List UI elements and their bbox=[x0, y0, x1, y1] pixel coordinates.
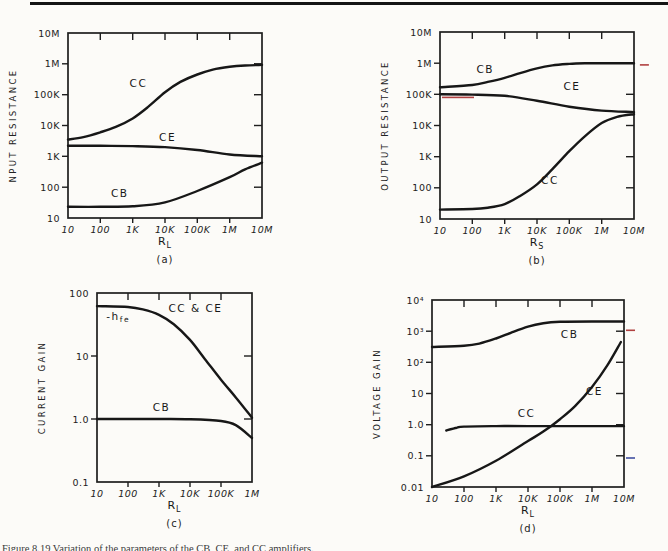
chart-c-current-gain: 101001K10K100K1M100101.00.1-hfeCC & CECB… bbox=[0, 276, 334, 551]
subfigure-label: (a) bbox=[157, 254, 174, 265]
y-tick-label: 100 bbox=[412, 182, 432, 193]
curve-CE bbox=[68, 146, 262, 157]
curve-CC bbox=[68, 65, 262, 140]
x-tick-label: 100 bbox=[90, 224, 110, 235]
x-tick-label: 10K bbox=[155, 224, 175, 235]
plot-border bbox=[440, 32, 634, 219]
x-axis-title: RL bbox=[521, 504, 535, 519]
x-axis-title: RS bbox=[530, 236, 545, 251]
y-tick-label: 1K bbox=[47, 151, 61, 162]
curve-CB bbox=[68, 163, 262, 207]
x-tick-label: 100 bbox=[454, 493, 474, 504]
y-tick-label: 100K bbox=[34, 89, 61, 100]
series-label-CE: CE bbox=[159, 131, 176, 143]
y-axis-title: OUTPUT RESISTANCE bbox=[380, 60, 390, 191]
series-label-CB: CB bbox=[111, 187, 129, 199]
y-tick-label: 100K bbox=[406, 89, 433, 100]
y-tick-label: 100 bbox=[40, 182, 60, 193]
y-axis-title: NPUT RESISTANCE bbox=[8, 68, 18, 182]
y-tick-label: 10³ bbox=[407, 326, 424, 337]
y-tick-label: 10 bbox=[411, 388, 424, 399]
x-tick-label: 1M bbox=[222, 224, 237, 235]
chart-a-input-resistance: 101001K10K100K1M10M10M1M100K10K1K10010CC… bbox=[0, 0, 334, 275]
chart-c-canvas: 101001K10K100K1M100101.00.1-hfeCC & CECB… bbox=[0, 276, 334, 551]
series-label-CE: CE bbox=[586, 385, 603, 397]
y-tick-label: 10 bbox=[47, 213, 60, 224]
x-tick-label: 10K bbox=[527, 225, 547, 236]
plot-border bbox=[68, 33, 262, 218]
y-tick-label: 1.0 bbox=[72, 414, 89, 425]
chart-d-voltage-gain: 101001K10K100K1M10M10⁴10³10²101.00.10.01… bbox=[334, 276, 668, 551]
x-tick-label: 1M bbox=[594, 225, 609, 236]
series-label-CC: CC bbox=[541, 174, 559, 186]
x-tick-label: 10M bbox=[623, 225, 645, 236]
y-tick-label: 0.1 bbox=[72, 477, 89, 488]
curve-CB bbox=[440, 63, 634, 87]
x-tick-label: 1K bbox=[498, 225, 512, 236]
y-tick-label: 1M bbox=[417, 58, 432, 69]
y-tick-label: 10M bbox=[410, 27, 432, 38]
y-tick-label: 1K bbox=[419, 151, 433, 162]
chart-d-canvas: 101001K10K100K1M10M10⁴10³10²101.00.10.01… bbox=[334, 276, 668, 551]
y-tick-label: 10M bbox=[38, 28, 60, 39]
x-tick-label: 100 bbox=[462, 225, 482, 236]
chart-a-canvas: 101001K10K100K1M10M10M1M100K10K1K10010CC… bbox=[0, 0, 334, 275]
subfigure-label: (c) bbox=[166, 518, 182, 529]
y-tick-label: 10 bbox=[76, 351, 89, 362]
x-tick-label: 1M bbox=[584, 493, 599, 504]
y-tick-label: 1.0 bbox=[407, 419, 424, 430]
x-tick-label: 10M bbox=[251, 224, 273, 235]
chart-b-canvas: 101001K10K100K1M10M10M1M100K10K1K10010CB… bbox=[334, 0, 668, 275]
scanned-figure-page: 101001K10K100K1M10M10M1M100K10K1K10010CC… bbox=[0, 0, 668, 551]
y-tick-label: 10⁴ bbox=[407, 295, 424, 306]
series-label-CC: CC bbox=[518, 407, 536, 419]
figure-caption: Figure 8.19 Variation of the parameters … bbox=[2, 543, 662, 551]
y-tick-label: 10 bbox=[419, 214, 432, 225]
x-tick-label: 10K bbox=[518, 493, 538, 504]
chart-b-output-resistance: 101001K10K100K1M10M10M1M100K10K1K10010CB… bbox=[334, 0, 668, 275]
x-tick-label: 100K bbox=[556, 225, 583, 236]
series-label--h: -hfe bbox=[106, 310, 130, 325]
x-tick-label: 1K bbox=[126, 224, 140, 235]
series-label-CC: CC bbox=[130, 77, 148, 89]
x-tick-label: 10K bbox=[180, 488, 200, 499]
x-axis-title: RL bbox=[167, 499, 181, 514]
x-tick-label: 10 bbox=[433, 225, 446, 236]
y-tick-label: 10K bbox=[412, 120, 432, 131]
series-label-CB: CB bbox=[153, 401, 171, 413]
series-label-CB: CB bbox=[476, 63, 494, 75]
x-tick-label: 1M bbox=[244, 488, 259, 499]
curve-CC bbox=[440, 114, 634, 209]
y-axis-title: VOLTAGE GAIN bbox=[372, 348, 382, 439]
y-tick-label: 10² bbox=[407, 357, 424, 368]
curve-CC bbox=[446, 426, 624, 430]
x-tick-label: 10 bbox=[425, 493, 438, 504]
x-tick-label: 100 bbox=[118, 488, 138, 499]
curve-CB bbox=[432, 322, 624, 348]
x-tick-label: 10 bbox=[61, 224, 74, 235]
y-tick-label: 100 bbox=[69, 288, 89, 299]
series-label-CE: CE bbox=[563, 80, 580, 92]
x-axis-title: RL bbox=[158, 235, 172, 250]
y-tick-label: 0.01 bbox=[401, 482, 424, 493]
curve-CB bbox=[97, 419, 252, 438]
x-tick-label: 100K bbox=[547, 493, 574, 504]
x-tick-label: 10 bbox=[90, 488, 103, 499]
series-label-CC & CE: CC & CE bbox=[169, 302, 223, 314]
subfigure-label: (b) bbox=[528, 255, 545, 266]
x-tick-label: 1K bbox=[152, 488, 166, 499]
y-axis-title: CURRENT GAIN bbox=[37, 341, 47, 435]
y-tick-label: 1M bbox=[45, 58, 60, 69]
y-tick-label: 10K bbox=[40, 120, 60, 131]
y-tick-label: 0.1 bbox=[407, 450, 424, 461]
series-label-CB: CB bbox=[561, 328, 579, 340]
x-tick-label: 100K bbox=[184, 224, 211, 235]
x-tick-label: 1K bbox=[489, 493, 503, 504]
x-tick-label: 10M bbox=[613, 493, 635, 504]
subfigure-label: (d) bbox=[519, 523, 536, 534]
x-tick-label: 100K bbox=[208, 488, 235, 499]
